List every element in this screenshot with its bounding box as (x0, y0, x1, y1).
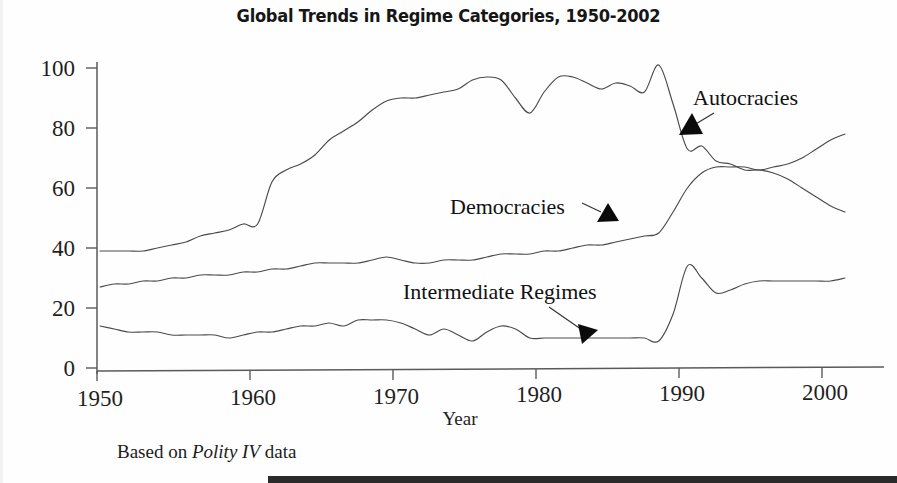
x-tick-label-1970: 1970 (373, 384, 419, 409)
source-note-prefix: Based on (117, 441, 192, 462)
chart-figure: Global Trends in Regime Categories, 1950… (0, 0, 897, 483)
x-tick-label-1990: 1990 (659, 381, 705, 406)
series-label-intermediate: Intermediate Regimes (403, 279, 597, 304)
y-tick-label-100: 100 (41, 56, 76, 81)
source-note: Based on Polity IV data (117, 441, 296, 463)
scan-edge-band (268, 476, 897, 483)
y-tick-label-20: 20 (52, 296, 75, 321)
x-axis-label: Year (442, 408, 478, 429)
y-tick-label-80: 80 (52, 116, 75, 141)
x-tick-label-1960: 1960 (230, 385, 276, 410)
source-note-italic: Polity IV (192, 441, 260, 462)
line-chart-plot: 0 20 40 60 80 100 1950 1960 1970 1980 19… (0, 0, 897, 483)
pointer-triangle-democracies (597, 203, 619, 222)
pointer-triangle-intermediate (578, 324, 598, 344)
y-tick-label-0: 0 (64, 356, 76, 381)
pointer-triangle-autocracies (679, 113, 703, 135)
x-tick-label-1950: 1950 (77, 386, 123, 411)
y-tick-label-40: 40 (52, 236, 75, 261)
source-note-suffix: data (260, 441, 296, 462)
series-label-autocracies: Autocracies (693, 85, 798, 110)
x-tick-label-2000: 2000 (802, 380, 848, 405)
leader-line-democracies (582, 203, 601, 212)
series-label-democracies: Democracies (450, 194, 565, 219)
x-axis-line (97, 367, 884, 371)
y-tick-label-60: 60 (52, 176, 75, 201)
y-axis-ticks (86, 68, 97, 368)
x-tick-label-1980: 1980 (516, 382, 562, 407)
